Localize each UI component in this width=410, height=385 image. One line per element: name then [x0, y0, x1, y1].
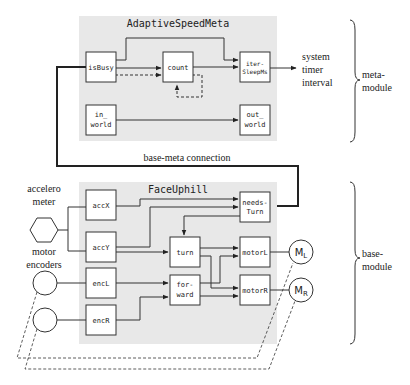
- svg-text:motorR: motorR: [242, 287, 268, 295]
- block-in-world: in_ world: [86, 105, 116, 135]
- svg-text:ward: ward: [177, 291, 194, 299]
- block-forward: for- ward: [170, 275, 200, 305]
- svg-text:interval: interval: [302, 77, 333, 88]
- accelerometer: accelero meter: [27, 183, 86, 251]
- motor-right: MR: [289, 278, 313, 302]
- svg-text:isBusy: isBusy: [88, 64, 113, 72]
- base-module-brace: [350, 182, 360, 344]
- svg-text:out_: out_: [247, 111, 265, 119]
- svg-text:module: module: [362, 82, 393, 93]
- svg-text:for-: for-: [177, 281, 194, 289]
- svg-text:count: count: [167, 64, 188, 72]
- block-motorR: motorR: [240, 275, 270, 305]
- svg-text:motor: motor: [32, 246, 57, 257]
- encoder-right-circle: [33, 308, 57, 332]
- base-module-title: FaceUphill: [148, 184, 208, 195]
- block-iterSleepMs: iter- SleepMs: [240, 52, 270, 82]
- meta-module: AdaptiveSpeedMeta isBusy count: [79, 16, 393, 142]
- accelerometer-hexagon-icon: [30, 218, 58, 242]
- svg-text:system: system: [302, 51, 330, 62]
- motor-left: ML: [289, 240, 313, 264]
- svg-text:in_: in_: [95, 111, 108, 119]
- meta-module-brace-label: meta- module: [362, 69, 393, 93]
- svg-text:meter: meter: [33, 196, 56, 207]
- svg-text:encoders: encoders: [26, 259, 62, 270]
- svg-text:encL: encL: [93, 280, 110, 288]
- svg-text:SleepMs: SleepMs: [242, 68, 268, 76]
- svg-text:base-: base-: [362, 248, 383, 259]
- connection-label: base-meta connection: [144, 152, 231, 163]
- block-motorL: motorL: [240, 237, 270, 267]
- encoder-left-circle: [33, 271, 57, 295]
- svg-text:world: world: [244, 121, 265, 129]
- svg-text:accX: accX: [93, 202, 111, 210]
- svg-text:accelero: accelero: [27, 183, 60, 194]
- svg-text:accY: accY: [93, 244, 111, 252]
- block-turn: turn: [170, 237, 200, 267]
- svg-text:encR: encR: [93, 317, 111, 325]
- svg-text:module: module: [362, 261, 393, 272]
- svg-text:Turn: Turn: [247, 208, 264, 216]
- base-module: FaceUphill: [79, 182, 393, 344]
- block-count: count: [163, 52, 193, 82]
- svg-text:timer: timer: [302, 64, 324, 75]
- system-timer-label: system timer interval: [302, 51, 333, 88]
- block-encL: encL: [86, 268, 116, 298]
- block-encR: encR: [86, 305, 116, 335]
- meta-module-brace: [350, 20, 360, 142]
- svg-text:iter-: iter-: [246, 60, 264, 67]
- diagram-canvas: AdaptiveSpeedMeta isBusy count: [0, 0, 410, 385]
- block-accY: accY: [86, 232, 116, 262]
- motor-encoders: motor encoders: [26, 246, 86, 332]
- block-out-world: out_ world: [240, 105, 270, 135]
- block-accX: accX: [86, 190, 116, 220]
- svg-text:motorL: motorL: [242, 249, 267, 257]
- base-module-brace-label: base- module: [362, 248, 393, 272]
- meta-module-title: AdaptiveSpeedMeta: [127, 18, 229, 29]
- svg-text:meta-: meta-: [362, 69, 385, 80]
- svg-text:turn: turn: [177, 249, 194, 257]
- block-needsTurn: needs- Turn: [240, 192, 270, 222]
- svg-text:world: world: [90, 121, 111, 129]
- block-isBusy: isBusy: [86, 52, 116, 82]
- svg-text:needs-: needs-: [242, 199, 267, 207]
